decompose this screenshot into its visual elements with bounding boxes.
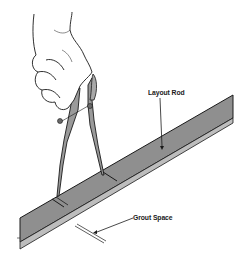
label-layout-rod: Layout Rod — [148, 88, 185, 97]
layout-rod — [17, 95, 233, 249]
grout-space-strip — [75, 224, 106, 243]
illustration — [0, 0, 244, 263]
label-grout-space: Grout Space — [133, 213, 172, 222]
hand — [32, 12, 92, 110]
